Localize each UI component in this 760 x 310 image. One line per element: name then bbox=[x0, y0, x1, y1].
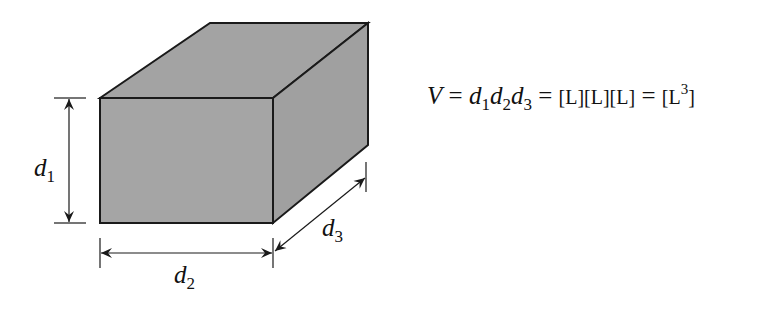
dimension-d2: d2 bbox=[100, 238, 273, 293]
equals-sign: = bbox=[538, 82, 552, 109]
term-d1-sub: 1 bbox=[481, 95, 490, 114]
label-d3: d3 bbox=[322, 214, 343, 246]
term-d2-sub: 2 bbox=[502, 95, 511, 114]
result-units: [L3] bbox=[662, 86, 695, 108]
volume-symbol: V bbox=[427, 82, 442, 109]
result-close: ] bbox=[688, 86, 695, 108]
term-d2: d bbox=[490, 82, 503, 109]
dimension-d1: d1 bbox=[34, 98, 86, 223]
label-d1: d1 bbox=[34, 154, 55, 186]
term-d3-sub: 3 bbox=[523, 95, 532, 114]
term-d1: d bbox=[469, 82, 482, 109]
result-exponent: 3 bbox=[681, 81, 689, 97]
box-front-face bbox=[100, 98, 273, 223]
volume-equation: V = d1d2d3 = [L][L][L] = [L3] bbox=[427, 82, 695, 110]
box-diagram: d1 d2 d3 bbox=[0, 0, 760, 310]
term-d3: d bbox=[511, 82, 524, 109]
equals-sign: = bbox=[641, 82, 655, 109]
label-d2: d2 bbox=[174, 261, 195, 293]
units-product: [L][L][L] bbox=[559, 86, 636, 108]
equals-sign: = bbox=[449, 82, 463, 109]
result-open: [L bbox=[662, 86, 681, 108]
